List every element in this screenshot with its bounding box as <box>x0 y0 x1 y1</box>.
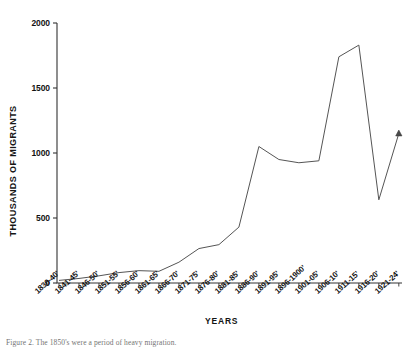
y-axis-tick-marks <box>53 23 57 283</box>
endpoint-triangle-marker <box>396 130 402 136</box>
x-axis-title: YEARS <box>205 316 238 326</box>
migration-data-line <box>59 45 399 280</box>
y-tick-label: 2000 <box>8 18 50 28</box>
figure-caption: Figure 2. The 1850's were a period of he… <box>6 338 177 347</box>
y-tick-label: 1500 <box>8 83 50 93</box>
axis-spines <box>57 23 402 283</box>
y-axis-title-wrap: THOUSANDS OF MIGRANTS <box>4 96 22 246</box>
y-tick-label: 500 <box>8 213 50 223</box>
y-tick-label: 1000 <box>8 148 50 158</box>
